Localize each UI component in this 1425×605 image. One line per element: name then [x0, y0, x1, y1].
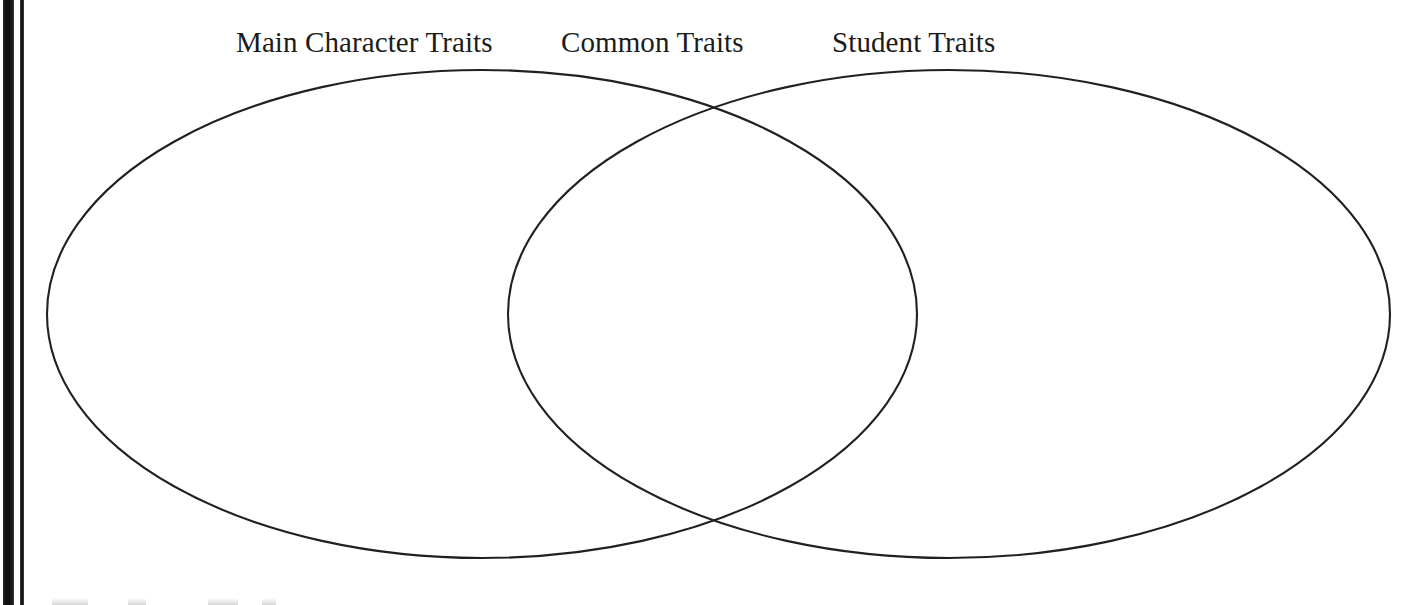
venn-ellipse-right	[508, 70, 1390, 558]
venn-label-main-character-traits: Main Character Traits	[236, 28, 493, 57]
venn-label-common-traits: Common Traits	[561, 28, 744, 57]
venn-diagram	[0, 0, 1425, 605]
clipped-text-smudge	[128, 598, 146, 605]
venn-label-student-traits: Student Traits	[832, 28, 995, 57]
worksheet-page: Main Character Traits Common Traits Stud…	[0, 0, 1425, 605]
clipped-text-smudge	[208, 598, 238, 605]
clipped-text-smudge	[262, 598, 276, 605]
venn-ellipse-left	[47, 70, 917, 558]
clipped-text-smudge	[52, 598, 88, 605]
